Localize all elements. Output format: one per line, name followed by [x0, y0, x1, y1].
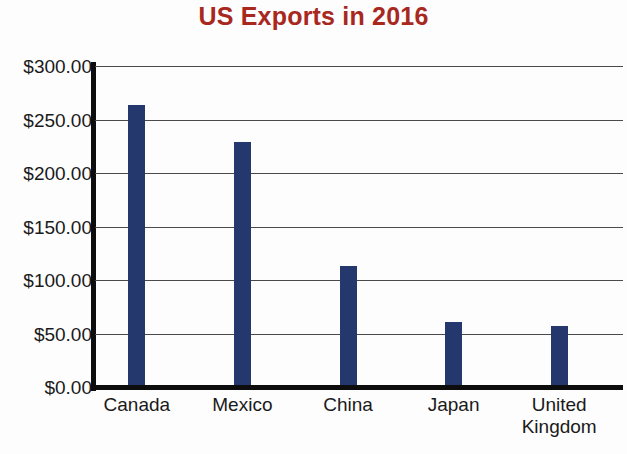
- y-axis-tick-label: $250.00: [6, 110, 92, 129]
- chart-title: US Exports in 2016: [0, 2, 627, 31]
- x-axis-category-label: China: [296, 394, 400, 416]
- y-axis-tick-label: $150.00: [6, 217, 92, 236]
- y-axis-tick-label: $0.00: [6, 378, 92, 397]
- bar: [128, 105, 145, 387]
- y-axis-tick-label: $200.00: [6, 164, 92, 183]
- gridline: [95, 280, 623, 281]
- y-axis-tick-label: $50.00: [6, 324, 92, 343]
- chart-screenshot: US Exports in 2016 $300.00$250.00$200.00…: [0, 0, 627, 454]
- bar: [234, 142, 251, 387]
- bar: [445, 322, 462, 387]
- x-axis-category-label: Canada: [85, 394, 189, 416]
- y-axis-tick-labels: $300.00$250.00$200.00$150.00$100.00$50.0…: [0, 0, 92, 454]
- gridline: [95, 66, 623, 67]
- bar: [551, 326, 568, 387]
- gridline: [95, 173, 623, 174]
- gridline: [95, 120, 623, 121]
- x-axis-category-label: Japan: [402, 394, 506, 416]
- gridline: [95, 227, 623, 228]
- gridline: [95, 334, 623, 335]
- bar: [340, 266, 357, 387]
- y-axis-tick-label: $300.00: [6, 57, 92, 76]
- y-axis-tick-label: $100.00: [6, 271, 92, 290]
- x-axis-category-label: Mexico: [190, 394, 294, 416]
- plot-area: [95, 66, 623, 387]
- x-axis-line: [91, 385, 623, 390]
- x-axis-category-label: United Kingdom: [507, 394, 611, 438]
- x-axis-category-labels: CanadaMexicoChinaJapanUnited Kingdom: [95, 394, 623, 454]
